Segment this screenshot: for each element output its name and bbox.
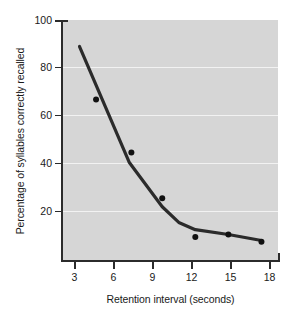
y-tick-mark-40 (55, 163, 62, 165)
y-tick-mark-80 (55, 67, 62, 69)
y-tick-mark-60 (55, 115, 62, 117)
x-axis-line (61, 260, 280, 262)
y-tick-label-60: 60 (12, 110, 52, 121)
x-tick-label-15: 15 (216, 272, 246, 283)
x-tick-mark-12 (191, 262, 193, 269)
y-axis-top-cap (61, 20, 68, 22)
gridline-20 (63, 211, 278, 213)
x-tick-mark-6 (113, 262, 115, 269)
chart-figure: Percentage of syllables correctly recall… (0, 0, 295, 320)
y-tick-label-40: 40 (12, 158, 52, 169)
x-tick-mark-3 (74, 262, 76, 269)
x-tick-label-6: 6 (99, 272, 129, 283)
y-tick-mark-100 (55, 20, 62, 22)
y-axis-title: Percentage of syllables correctly recall… (14, 16, 30, 266)
y-tick-mark-20 (55, 211, 62, 213)
x-tick-mark-9 (152, 262, 154, 269)
x-axis-title: Retention interval (seconds) (63, 293, 278, 305)
y-tick-label-80: 80 (12, 62, 52, 73)
x-tick-label-18: 18 (255, 272, 285, 283)
x-tick-label-9: 9 (138, 272, 168, 283)
gridline-60 (63, 115, 278, 117)
y-axis-line (61, 20, 63, 262)
gridline-80 (63, 67, 278, 69)
x-tick-label-12: 12 (177, 272, 207, 283)
x-tick-mark-15 (230, 262, 232, 269)
x-tick-mark-18 (269, 262, 271, 269)
gridline-40 (63, 163, 278, 165)
x-tick-label-3: 3 (60, 272, 90, 283)
y-tick-label-100: 100 (12, 15, 52, 26)
plot-area (63, 20, 278, 262)
x-axis-right-cap (278, 253, 280, 262)
y-tick-label-20: 20 (12, 206, 52, 217)
